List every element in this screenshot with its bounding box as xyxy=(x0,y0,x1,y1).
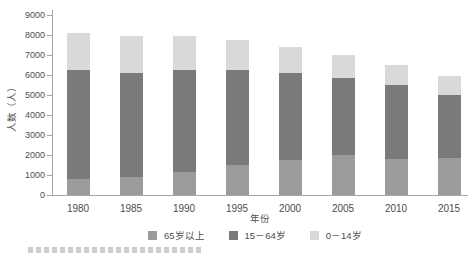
bar-segment-65岁以上 xyxy=(226,165,249,195)
bar-segment-0－14岁 xyxy=(385,65,408,85)
y-tick-mark xyxy=(47,175,52,176)
x-tick-label: 2010 xyxy=(376,203,416,214)
x-tick-label: 1980 xyxy=(58,203,98,214)
y-tick-label: 4000 xyxy=(0,110,45,120)
y-tick-mark xyxy=(47,155,52,156)
bar-segment-65岁以上 xyxy=(385,159,408,195)
y-tick-label: 0 xyxy=(0,190,45,200)
bar-segment-65岁以上 xyxy=(173,172,196,195)
y-tick-mark xyxy=(47,55,52,56)
bar-segment-0－14岁 xyxy=(120,36,143,73)
bar-segment-15－64岁 xyxy=(226,70,249,165)
bar-segment-65岁以上 xyxy=(120,177,143,195)
x-tick-label: 2005 xyxy=(323,203,363,214)
bar-segment-65岁以上 xyxy=(67,179,90,195)
x-tick-label: 2015 xyxy=(429,203,469,214)
population-stacked-bar-chart: 人数（人） 0100020003000400050006000700080009… xyxy=(0,0,474,253)
bar-segment-15－64岁 xyxy=(332,78,355,155)
bar-segment-15－64岁 xyxy=(120,73,143,177)
bar-segment-0－14岁 xyxy=(438,76,461,95)
y-tick-label: 7000 xyxy=(0,50,45,60)
y-tick-mark xyxy=(47,35,52,36)
bar-segment-15－64岁 xyxy=(438,95,461,158)
y-tick-mark xyxy=(47,135,52,136)
bar-segment-15－64岁 xyxy=(279,73,302,160)
legend-label: 15－64岁 xyxy=(245,228,286,242)
bar-segment-0－14岁 xyxy=(173,36,196,70)
bar-segment-0－14岁 xyxy=(332,55,355,78)
bar-segment-15－64岁 xyxy=(173,70,196,172)
y-tick-mark xyxy=(47,95,52,96)
y-axis-line xyxy=(52,10,53,195)
legend-swatch xyxy=(310,231,319,240)
y-tick-mark xyxy=(47,15,52,16)
bar-segment-15－64岁 xyxy=(67,70,90,179)
legend-item: 65岁以上 xyxy=(148,228,205,242)
x-tick-label: 1990 xyxy=(164,203,204,214)
legend-label: 65岁以上 xyxy=(164,228,205,242)
y-tick-label: 2000 xyxy=(0,150,45,160)
y-tick-label: 8000 xyxy=(0,30,45,40)
x-axis-line xyxy=(52,195,468,196)
y-tick-mark xyxy=(47,75,52,76)
cropped-caption-fragment xyxy=(28,247,203,253)
bar-segment-15－64岁 xyxy=(385,85,408,159)
y-tick-label: 6000 xyxy=(0,70,45,80)
y-tick-label: 5000 xyxy=(0,90,45,100)
bar-segment-65岁以上 xyxy=(332,155,355,195)
y-tick-label: 3000 xyxy=(0,130,45,140)
x-axis-title: 年份 xyxy=(240,211,280,225)
y-tick-label: 1000 xyxy=(0,170,45,180)
bar-segment-0－14岁 xyxy=(226,40,249,70)
bar-segment-0－14岁 xyxy=(67,33,90,70)
bar-segment-0－14岁 xyxy=(279,47,302,73)
y-tick-label: 9000 xyxy=(0,10,45,20)
legend-label: 0－14岁 xyxy=(326,228,362,242)
bar-segment-65岁以上 xyxy=(279,160,302,195)
y-tick-mark xyxy=(47,115,52,116)
bar-segment-65岁以上 xyxy=(438,158,461,195)
legend-item: 15－64岁 xyxy=(229,228,286,242)
legend-item: 0－14岁 xyxy=(310,228,362,242)
legend-swatch xyxy=(148,231,157,240)
y-tick-mark xyxy=(47,195,52,196)
x-tick-label: 1985 xyxy=(111,203,151,214)
legend-swatch xyxy=(229,231,238,240)
chart-legend: 65岁以上15－64岁0－14岁 xyxy=(148,228,362,242)
